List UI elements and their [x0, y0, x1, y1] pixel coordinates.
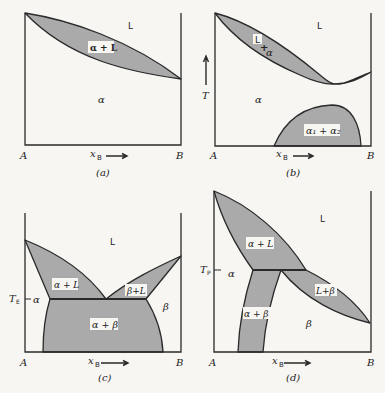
panel-b-label-alpha-small: α — [266, 47, 273, 58]
panel-c-axis-right: B — [175, 357, 183, 368]
panel-d-caption: (d) — [286, 372, 300, 383]
panel-d-axis-right: B — [366, 357, 374, 368]
panel-c-xaxis-sub: B — [95, 361, 100, 369]
panel-d-label-alpha: α — [228, 268, 235, 279]
panel-c-label-liquid: L — [110, 237, 115, 247]
panel-d-xaxis-label: x — [272, 355, 278, 366]
panel-b-label-alpha1-alpha2: α₁ + α₂ — [306, 125, 341, 136]
panel-d-axis-left: A — [208, 357, 216, 368]
panel-a-caption: (a) — [96, 167, 110, 178]
phase-diagrams-figure: L α + L α A B x B (a) T L L + α α α₁ + α… — [0, 0, 385, 393]
panel-c-label-alpha-beta: α + β — [92, 319, 118, 330]
panel-c-alpha-liquid-region — [25, 240, 106, 299]
panel-b-arrow-icon — [293, 154, 313, 159]
panel-b-xaxis-sub: B — [283, 154, 288, 162]
panel-d-tp-sub: P — [207, 269, 211, 276]
panel-d-label-beta: β — [305, 318, 312, 329]
panel-b-liquid-alpha-region — [215, 13, 371, 84]
panel-c: L α + L β+L α + β α β T E A B x B (c) — [9, 213, 183, 383]
panel-c-label-beta: β — [162, 301, 169, 312]
panel-d-liquid-beta-region — [281, 270, 370, 323]
panel-a-label-alpha: α — [98, 94, 105, 105]
panel-d-alpha-liquid-region — [214, 191, 306, 270]
panel-d-arrow-icon — [284, 361, 310, 366]
panel-c-caption: (c) — [98, 372, 112, 383]
panel-d-label-alpha-liquid: α + L — [248, 239, 273, 249]
panel-a-axis-right: B — [175, 150, 183, 161]
panel-d-label-alpha-beta: α + β — [244, 309, 269, 319]
panel-a-xaxis-label: x — [90, 148, 96, 159]
panel-a-label-liquid: L — [128, 21, 133, 31]
panel-c-label-alpha-liquid: α + L — [54, 280, 79, 290]
panel-b-temperature-arrow-icon — [204, 56, 209, 85]
panel-c-axis-left: A — [19, 357, 27, 368]
panel-a-arrow-icon — [106, 154, 127, 159]
panel-b-xaxis-label: x — [276, 148, 282, 159]
panel-b-label-alpha: α — [255, 94, 262, 105]
panel-a-label-alpha-liquid: α + L — [90, 43, 118, 53]
panel-b-label-liquid: L — [317, 21, 322, 31]
panel-a-xaxis-sub: B — [97, 154, 102, 162]
panel-a: L α + L α A B x B (a) — [19, 13, 183, 178]
panel-b-axis-right: B — [366, 150, 374, 161]
panel-c-te-sub: E — [16, 298, 20, 305]
panel-a-axis-left: A — [19, 150, 27, 161]
panel-b-caption: (b) — [286, 167, 300, 178]
panel-d: L α + L L+β α + β α β T P A B x B (d) — [200, 191, 374, 383]
panel-c-xaxis-label: x — [88, 355, 94, 366]
panel-d-label-liquid-beta: L+β — [315, 286, 335, 296]
panel-d-label-liquid: L — [320, 214, 325, 224]
panel-b: T L L + α α α₁ + α₂ A B x B (b) — [202, 13, 374, 178]
panel-c-label-alpha: α — [33, 294, 40, 305]
panel-b-yaxis-label: T — [202, 90, 210, 101]
panel-c-label-beta-liquid: β+L — [126, 286, 146, 296]
panel-b-axis-left: A — [209, 150, 217, 161]
panel-d-xaxis-sub: B — [279, 361, 284, 369]
panel-c-arrow-icon — [101, 361, 128, 366]
